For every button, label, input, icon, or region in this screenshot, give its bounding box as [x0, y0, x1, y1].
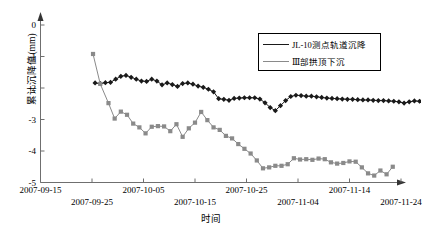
legend-item-series-1: JL-10测点轨道沉降 [263, 36, 366, 52]
data-point-marker [174, 122, 178, 126]
data-point-marker [123, 73, 128, 78]
data-point-marker [279, 164, 283, 168]
data-point-marker [286, 162, 290, 166]
data-point-marker [205, 118, 209, 122]
data-point-marker [372, 173, 376, 177]
x-tick-label: 2007-10-25 [217, 185, 277, 195]
data-point-marker [237, 95, 242, 100]
data-point-marker [412, 98, 417, 103]
data-point-marker [118, 74, 123, 79]
data-point-marker [103, 80, 108, 85]
data-point-marker [180, 81, 185, 86]
data-point-marker [323, 157, 327, 161]
chart-legend: JL-10测点轨道沉降 Ⅲ部拱顶下沉 [258, 33, 381, 71]
data-point-marker [347, 159, 351, 163]
data-point-marker [366, 171, 370, 175]
data-point-marker [230, 136, 234, 140]
data-point-marker [113, 77, 118, 82]
data-point-marker [340, 96, 345, 101]
data-point-marker [371, 98, 376, 103]
data-point-marker [190, 82, 195, 87]
data-point-marker [150, 125, 154, 129]
data-point-marker [255, 158, 259, 162]
data-point-marker [168, 129, 172, 133]
data-point-marker [199, 110, 203, 114]
data-point-marker [378, 168, 382, 172]
x-tick-label: 2007-11-14 [320, 185, 380, 195]
data-point-marker [170, 82, 175, 87]
data-point-marker [407, 99, 412, 104]
data-point-marker [206, 87, 211, 92]
data-point-marker [201, 85, 206, 90]
series-line-1 [95, 75, 421, 110]
data-point-marker [345, 97, 350, 102]
data-point-marker [360, 97, 365, 102]
data-point-marker [249, 151, 253, 155]
data-point-marker [129, 75, 134, 80]
data-point-marker [365, 97, 370, 102]
data-point-marker [185, 80, 190, 85]
data-point-marker [298, 93, 303, 98]
data-point-marker [391, 99, 396, 104]
legend-swatch-square-icon [263, 56, 289, 66]
data-point-marker [131, 122, 135, 126]
data-point-marker [218, 128, 222, 132]
data-point-marker [181, 135, 185, 139]
data-point-marker [401, 101, 406, 106]
data-point-marker [92, 80, 97, 85]
data-point-marker [242, 147, 246, 151]
data-point-marker [273, 164, 277, 168]
data-point-marker [381, 98, 386, 103]
x-tick-label: 2007-11-04 [268, 197, 328, 207]
data-point-marker [98, 82, 102, 86]
data-point-marker [125, 113, 129, 117]
data-point-marker [391, 165, 395, 169]
x-tick-label: 2007-10-05 [114, 185, 174, 195]
series-line-2 [93, 54, 393, 176]
data-point-marker [108, 80, 113, 85]
data-point-marker [156, 124, 160, 128]
data-point-marker [139, 78, 144, 83]
data-point-marker [310, 158, 314, 162]
data-point-marker [134, 77, 139, 82]
data-point-marker [232, 96, 237, 101]
data-point-marker [252, 95, 257, 100]
data-point-marker [195, 84, 200, 89]
data-point-marker [113, 116, 117, 120]
data-point-marker [292, 156, 296, 160]
data-point-marker [261, 166, 265, 170]
data-point-marker [247, 95, 252, 100]
data-point-marker [384, 172, 388, 176]
data-point-marker [329, 160, 333, 164]
data-point-marker [360, 165, 364, 169]
data-point-marker [267, 165, 271, 169]
x-axis-ticks [92, 179, 401, 183]
data-point-marker [304, 157, 308, 161]
data-point-marker [396, 99, 401, 104]
data-point-marker [335, 96, 340, 101]
legend-item-series-2: Ⅲ部拱顶下沉 [263, 53, 345, 69]
data-point-marker [324, 95, 329, 100]
data-point-marker [317, 156, 321, 160]
data-point-marker [193, 121, 197, 125]
legend-swatch-diamond-icon [263, 39, 289, 49]
data-point-marker [309, 94, 314, 99]
data-point-marker [293, 93, 298, 98]
x-axis-title: 时间 [0, 211, 421, 225]
data-point-marker [341, 161, 345, 165]
y-axis-title: 累计沉降值(mm) [24, 14, 38, 124]
data-point-marker [162, 124, 166, 128]
data-point-marker [354, 160, 358, 164]
y-tick-label: -4 [6, 146, 36, 156]
data-point-marker [386, 98, 391, 103]
x-tick-label: 2007-10-15 [165, 197, 225, 207]
data-point-marker [119, 110, 123, 114]
data-point-marker [144, 79, 149, 84]
data-point-marker [376, 98, 381, 103]
data-point-marker [175, 84, 180, 89]
data-point-marker [319, 95, 324, 100]
data-point-marker [236, 142, 240, 146]
data-point-marker [335, 162, 339, 166]
data-point-marker [143, 131, 147, 135]
